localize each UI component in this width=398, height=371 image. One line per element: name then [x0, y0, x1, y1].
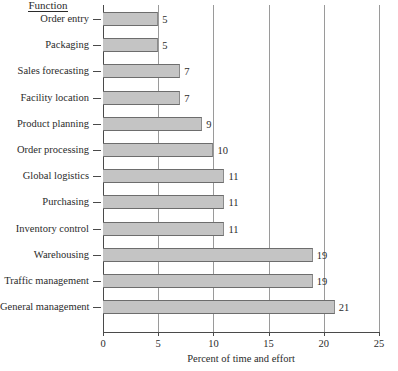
- bar[interactable]: [103, 300, 335, 314]
- x-tick-15: [269, 332, 270, 336]
- category-label-purchasing: Purchasing: [0, 196, 89, 208]
- bar[interactable]: [103, 91, 180, 105]
- bar[interactable]: [103, 12, 158, 26]
- category-tick: [93, 281, 101, 282]
- category-label-product-planning: Product planning: [0, 118, 89, 130]
- category-label-facility-location: Facility location: [0, 92, 89, 104]
- bar[interactable]: [103, 64, 180, 78]
- bar-row: 7: [103, 91, 379, 105]
- bar-row: 21: [103, 300, 379, 314]
- bar-value-label: 5: [162, 14, 167, 25]
- bar[interactable]: [103, 143, 213, 157]
- category-tick: [93, 45, 101, 46]
- category-tick: [93, 150, 101, 151]
- x-tick-label-10: 10: [201, 338, 225, 350]
- category-label-warehousing: Warehousing: [0, 249, 89, 261]
- bar-row: 11: [103, 169, 379, 183]
- category-tick: [93, 176, 101, 177]
- x-tick-label-5: 5: [146, 338, 170, 350]
- bar[interactable]: [103, 169, 224, 183]
- bar-row: 10: [103, 143, 379, 157]
- category-tick: [93, 229, 101, 230]
- bar[interactable]: [103, 274, 313, 288]
- bar-value-label: 11: [228, 197, 238, 208]
- category-label-order-entry: Order entry: [0, 13, 89, 25]
- category-label-general-management: General management: [0, 301, 89, 313]
- x-tick-5: [158, 332, 159, 336]
- category-tick: [93, 202, 101, 203]
- bar-row: 19: [103, 274, 379, 288]
- bar-value-label: 9: [206, 118, 211, 129]
- bar-row: 5: [103, 12, 379, 26]
- bar[interactable]: [103, 117, 202, 131]
- category-label-traffic-management: Traffic management: [0, 275, 89, 287]
- x-tick-25: [379, 332, 380, 336]
- category-axis-title: Function: [0, 0, 96, 12]
- bar-value-label: 10: [217, 145, 228, 156]
- bar-chart: Function 5577910111111191921 Order entry…: [0, 0, 398, 371]
- bar[interactable]: [103, 248, 313, 262]
- bar-value-label: 7: [184, 92, 189, 103]
- category-label-global-logistics: Global logistics: [0, 170, 89, 182]
- bar[interactable]: [103, 38, 158, 52]
- category-tick: [93, 307, 101, 308]
- bar-value-label: 7: [184, 66, 189, 77]
- category-axis-title-text: Function: [28, 0, 67, 12]
- bar-value-label: 19: [317, 276, 328, 287]
- bar-row: 19: [103, 248, 379, 262]
- bar-row: 7: [103, 64, 379, 78]
- x-tick-label-25: 25: [367, 338, 391, 350]
- bar-value-label: 11: [228, 171, 238, 182]
- bar[interactable]: [103, 222, 224, 236]
- x-tick-label-20: 20: [312, 338, 336, 350]
- category-label-sales-forecasting: Sales forecasting: [0, 65, 89, 77]
- x-tick-label-15: 15: [257, 338, 281, 350]
- x-tick-label-0: 0: [91, 338, 115, 350]
- bar-value-label: 5: [162, 40, 167, 51]
- bar-row: 9: [103, 117, 379, 131]
- category-tick: [93, 19, 101, 20]
- gridline-25: [379, 5, 380, 332]
- x-axis-baseline: [103, 332, 379, 333]
- bar-row: 5: [103, 38, 379, 52]
- category-tick: [93, 255, 101, 256]
- bar[interactable]: [103, 195, 224, 209]
- bar-value-label: 21: [339, 302, 350, 313]
- x-axis-title: Percent of time and effort: [103, 353, 379, 365]
- bar-value-label: 19: [317, 249, 328, 260]
- bar-value-label: 11: [228, 223, 238, 234]
- x-tick-20: [324, 332, 325, 336]
- category-tick: [93, 71, 101, 72]
- category-label-order-processing: Order processing: [0, 144, 89, 156]
- category-label-inventory-control: Inventory control: [0, 223, 89, 235]
- bar-row: 11: [103, 222, 379, 236]
- x-tick-10: [213, 332, 214, 336]
- category-label-packaging: Packaging: [0, 39, 89, 51]
- category-tick: [93, 124, 101, 125]
- category-tick: [93, 98, 101, 99]
- x-tick-0: [103, 332, 104, 336]
- bar-row: 11: [103, 195, 379, 209]
